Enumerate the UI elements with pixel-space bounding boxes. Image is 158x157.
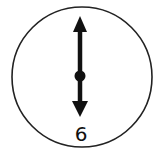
- numeral-six: 6: [70, 122, 92, 146]
- clock-face: 6: [0, 0, 158, 157]
- center-pivot-icon: [75, 71, 86, 82]
